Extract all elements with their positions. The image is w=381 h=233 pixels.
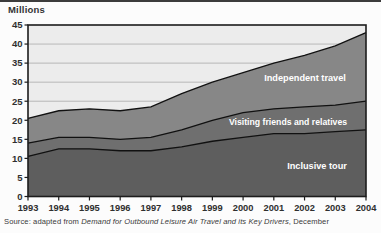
x-tick-label-2000: 2000 [233, 203, 254, 213]
y-tick-label-5: 5 [17, 172, 23, 183]
series-label-inclusive-tour: Inclusive tour [287, 161, 347, 171]
x-tick-label-2004: 2004 [356, 203, 378, 213]
y-tick-label-40: 40 [12, 38, 23, 49]
x-tick-label-1994: 1994 [48, 203, 70, 213]
x-tick-label-1997: 1997 [141, 203, 162, 213]
y-tick-label-10: 10 [12, 153, 23, 164]
y-tick-label-15: 15 [12, 134, 23, 145]
source-suffix: , December [289, 217, 329, 226]
x-tick-label-1999: 1999 [202, 203, 223, 213]
x-tick-label-1993: 1993 [18, 203, 39, 213]
x-tick-label-1998: 1998 [171, 203, 192, 213]
stacked-area-chart: 0510152025303540451993199419951996199719… [0, 0, 381, 233]
source-caption: Source: adapted from Demand for Outbound… [4, 217, 379, 226]
y-tick-label-45: 45 [12, 19, 23, 30]
series-label-independent-travel: Independent travel [264, 73, 346, 83]
x-tick-label-2001: 2001 [263, 203, 284, 213]
source-title: Demand for Outbound Leisure Air Travel a… [81, 217, 289, 226]
y-tick-label-0: 0 [17, 191, 22, 202]
x-tick-label-1996: 1996 [110, 203, 131, 213]
y-axis-units-label: Millions [8, 4, 45, 15]
x-tick-label-1995: 1995 [79, 203, 100, 213]
x-tick-label-2003: 2003 [325, 203, 346, 213]
y-tick-label-25: 25 [12, 96, 23, 107]
x-tick-label-2002: 2002 [294, 203, 315, 213]
chart-figure: 0510152025303540451993199419951996199719… [0, 0, 381, 233]
series-label-visiting-friends-and-relatives: Visiting friends and relatives [229, 117, 347, 127]
y-tick-label-20: 20 [12, 115, 23, 126]
y-tick-label-30: 30 [12, 76, 23, 87]
source-prefix: Source: adapted from [4, 217, 81, 226]
y-tick-label-35: 35 [12, 57, 23, 68]
